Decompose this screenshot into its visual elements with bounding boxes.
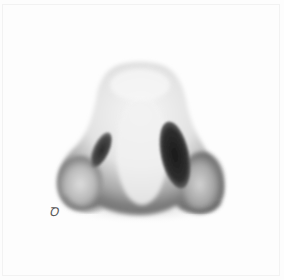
drawing-paper: Ꝺ [0, 0, 284, 280]
nose-drawing [0, 0, 284, 280]
artist-signature: Ꝺ [49, 203, 58, 220]
tip-highlight [110, 69, 170, 101]
